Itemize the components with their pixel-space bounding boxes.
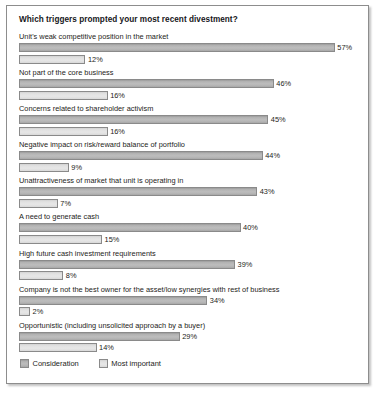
chart-legend: Consideration Most important bbox=[19, 359, 358, 368]
bar-most-important[interactable] bbox=[19, 307, 30, 316]
bar-row-group: Opportunistic (including unsolicited app… bbox=[19, 321, 358, 353]
bar-value-label: 46% bbox=[276, 79, 291, 88]
bar-consideration[interactable] bbox=[19, 260, 235, 269]
bar-consideration[interactable] bbox=[19, 115, 268, 124]
bar-consideration[interactable] bbox=[19, 151, 263, 160]
bar-value-label: 44% bbox=[265, 151, 280, 160]
bar-category-label: Company is not the best owner for the as… bbox=[19, 285, 358, 295]
bar-line: 14% bbox=[19, 343, 358, 352]
legend-item-consideration[interactable]: Consideration bbox=[20, 359, 79, 368]
bar-value-label: 57% bbox=[337, 43, 352, 52]
legend-label: Consideration bbox=[33, 359, 79, 368]
bar-line: 44% bbox=[19, 151, 358, 160]
bar-value-label: 2% bbox=[33, 307, 44, 316]
bar-line: 12% bbox=[19, 55, 358, 64]
bar-line: 34% bbox=[19, 296, 358, 305]
bar-line: 7% bbox=[19, 199, 358, 208]
bar-most-important[interactable] bbox=[19, 271, 63, 280]
bar-line: 46% bbox=[19, 79, 358, 88]
bar-line: 16% bbox=[19, 127, 358, 136]
bar-consideration[interactable] bbox=[19, 332, 180, 341]
bar-category-label: High future cash investment requirements bbox=[19, 249, 358, 259]
bar-value-label: 39% bbox=[238, 260, 253, 269]
bar-value-label: 16% bbox=[110, 127, 125, 136]
bar-most-important[interactable] bbox=[19, 55, 85, 64]
bar-consideration[interactable] bbox=[19, 187, 257, 196]
bar-most-important[interactable] bbox=[19, 199, 58, 208]
bar-line: 40% bbox=[19, 223, 358, 232]
bar-category-label: Opportunistic (including unsolicited app… bbox=[19, 321, 358, 331]
bar-value-label: 43% bbox=[260, 187, 275, 196]
bar-value-label: 7% bbox=[60, 199, 71, 208]
bar-category-label: Not part of the core business bbox=[19, 68, 358, 78]
bar-line: 16% bbox=[19, 91, 358, 100]
bar-consideration[interactable] bbox=[19, 43, 335, 52]
bar-line: 15% bbox=[19, 235, 358, 244]
bar-line: 39% bbox=[19, 260, 358, 269]
legend-item-most-important[interactable]: Most important bbox=[99, 359, 161, 368]
bar-consideration[interactable] bbox=[19, 79, 274, 88]
bar-most-important[interactable] bbox=[19, 163, 69, 172]
bar-value-label: 34% bbox=[210, 296, 225, 305]
bar-value-label: 9% bbox=[71, 163, 82, 172]
bar-most-important[interactable] bbox=[19, 343, 97, 352]
bar-category-label: Concerns related to shareholder activism bbox=[19, 104, 358, 114]
bar-rows-container: Unit's weak competitive position in the … bbox=[19, 32, 358, 352]
bar-consideration[interactable] bbox=[19, 223, 241, 232]
bar-row-group: Not part of the core business46%16% bbox=[19, 68, 358, 100]
bar-line: 43% bbox=[19, 187, 358, 196]
bar-line: 57% bbox=[19, 43, 358, 52]
bar-row-group: Unattractiveness of market that unit is … bbox=[19, 176, 358, 208]
bar-value-label: 45% bbox=[271, 115, 286, 124]
bar-most-important[interactable] bbox=[19, 91, 108, 100]
bar-category-label: Unattractiveness of market that unit is … bbox=[19, 176, 358, 186]
bar-value-label: 12% bbox=[88, 55, 103, 64]
legend-swatch-icon bbox=[99, 359, 108, 368]
chart-figure-frame: Which triggers prompted your most recent… bbox=[6, 5, 369, 384]
bar-row-group: Concerns related to shareholder activism… bbox=[19, 104, 358, 136]
bar-most-important[interactable] bbox=[19, 127, 108, 136]
bar-value-label: 16% bbox=[110, 91, 125, 100]
bar-value-label: 14% bbox=[99, 343, 114, 352]
bar-category-label: Unit's weak competitive position in the … bbox=[19, 32, 358, 42]
bar-line: 9% bbox=[19, 163, 358, 172]
bar-most-important[interactable] bbox=[19, 235, 102, 244]
bar-row-group: Company is not the best owner for the as… bbox=[19, 285, 358, 317]
bar-category-label: A need to generate cash bbox=[19, 212, 358, 222]
bar-value-label: 40% bbox=[243, 223, 258, 232]
bar-row-group: A need to generate cash40%15% bbox=[19, 212, 358, 244]
bar-value-label: 15% bbox=[105, 235, 120, 244]
bar-line: 45% bbox=[19, 115, 358, 124]
chart-figure-inner: Which triggers prompted your most recent… bbox=[7, 6, 368, 383]
bar-line: 8% bbox=[19, 271, 358, 280]
bar-consideration[interactable] bbox=[19, 296, 207, 305]
legend-label: Most important bbox=[111, 359, 161, 368]
bar-line: 2% bbox=[19, 307, 358, 316]
bar-row-group: Unit's weak competitive position in the … bbox=[19, 32, 358, 64]
bar-value-label: 8% bbox=[66, 271, 77, 280]
bar-category-label: Negative impact on risk/reward balance o… bbox=[19, 140, 358, 150]
bar-value-label: 29% bbox=[182, 332, 197, 341]
bar-row-group: Negative impact on risk/reward balance o… bbox=[19, 140, 358, 172]
chart-title: Which triggers prompted your most recent… bbox=[19, 15, 358, 25]
bar-line: 29% bbox=[19, 332, 358, 341]
bar-row-group: High future cash investment requirements… bbox=[19, 249, 358, 281]
legend-swatch-icon bbox=[20, 359, 29, 368]
